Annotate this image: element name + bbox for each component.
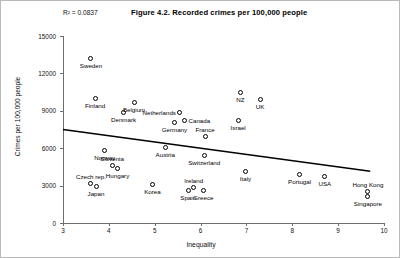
data-point-label: NZ bbox=[236, 97, 244, 103]
data-point-marker[interactable] bbox=[258, 97, 263, 102]
data-point-marker[interactable] bbox=[172, 120, 177, 125]
data-point-label: Denmark bbox=[111, 117, 136, 123]
data-point-marker[interactable] bbox=[132, 100, 137, 105]
data-point-marker[interactable] bbox=[186, 188, 191, 193]
data-point-label: Hong Kong bbox=[352, 182, 383, 188]
data-point-marker[interactable] bbox=[88, 56, 93, 61]
data-point-label: USA bbox=[318, 181, 331, 187]
data-point-label: Italy bbox=[240, 176, 251, 182]
y-tick-mark bbox=[60, 36, 63, 37]
data-point-marker[interactable] bbox=[93, 96, 98, 101]
data-point-marker[interactable] bbox=[88, 181, 93, 186]
y-tick-mark bbox=[60, 73, 63, 74]
y-tick-label: 9000 bbox=[1, 107, 56, 114]
data-point-label: Singapore bbox=[354, 201, 382, 207]
data-point-label: Slovenia bbox=[100, 156, 124, 162]
data-point-label: Korea bbox=[144, 189, 161, 195]
data-point-marker[interactable] bbox=[150, 182, 155, 187]
data-point-marker[interactable] bbox=[121, 110, 126, 115]
y-tick-mark bbox=[60, 148, 63, 149]
x-tick-mark bbox=[246, 223, 247, 226]
data-point-marker[interactable] bbox=[365, 194, 370, 199]
x-tick-mark bbox=[109, 223, 110, 226]
data-point-marker[interactable] bbox=[202, 153, 207, 158]
x-tick-label: 8 bbox=[282, 227, 302, 234]
data-point-marker[interactable] bbox=[236, 118, 241, 123]
data-point-marker[interactable] bbox=[238, 90, 243, 95]
data-point-label: Sweden bbox=[80, 63, 102, 69]
x-tick-mark bbox=[292, 223, 293, 226]
x-axis-line bbox=[63, 223, 384, 224]
x-tick-label: 5 bbox=[145, 227, 165, 234]
y-tick-label: 12000 bbox=[1, 70, 56, 77]
data-point-label: Canada bbox=[189, 118, 211, 124]
figure-container: R² = 0.0837 Figure 4.2. Recorded crimes … bbox=[0, 0, 400, 258]
data-point-label: Czech rep. bbox=[76, 174, 106, 180]
x-tick-mark bbox=[155, 223, 156, 226]
data-point-label: Finland bbox=[85, 103, 105, 109]
y-axis-title: Crimes per 100,000 people bbox=[14, 57, 21, 177]
x-tick-label: 3 bbox=[53, 227, 73, 234]
x-tick-mark bbox=[384, 223, 385, 226]
data-point-label: Netherlands bbox=[143, 110, 176, 116]
y-tick-label: 3000 bbox=[1, 182, 56, 189]
x-tick-mark bbox=[201, 223, 202, 226]
x-tick-label: 10 bbox=[374, 227, 394, 234]
y-tick-label: 6000 bbox=[1, 145, 56, 152]
y-tick-mark bbox=[60, 186, 63, 187]
y-tick-mark bbox=[60, 111, 63, 112]
plot-area: 345678910 03000600090001200015000 Sweden… bbox=[1, 1, 400, 258]
x-tick-mark bbox=[63, 223, 64, 226]
data-point-label: Austria bbox=[156, 152, 175, 158]
data-point-marker[interactable] bbox=[203, 134, 208, 139]
data-point-marker[interactable] bbox=[115, 166, 120, 171]
x-tick-label: 4 bbox=[99, 227, 119, 234]
y-tick-label: 0 bbox=[1, 220, 56, 227]
data-point-marker[interactable] bbox=[110, 163, 115, 168]
data-point-label: Portugal bbox=[288, 179, 311, 185]
data-point-marker[interactable] bbox=[102, 148, 107, 153]
y-tick-label: 15000 bbox=[1, 33, 56, 40]
x-tick-label: 7 bbox=[236, 227, 256, 234]
data-point-marker[interactable] bbox=[322, 174, 327, 179]
data-point-marker[interactable] bbox=[201, 188, 206, 193]
data-point-label: Greece bbox=[193, 195, 213, 201]
x-axis-title: Inequality bbox=[1, 241, 400, 248]
data-point-marker[interactable] bbox=[243, 169, 248, 174]
data-point-label: Hungary bbox=[106, 173, 129, 179]
data-point-label: Israel bbox=[231, 125, 246, 131]
data-point-label: Switzerland bbox=[188, 160, 220, 166]
data-point-marker[interactable] bbox=[191, 185, 196, 190]
x-tick-label: 6 bbox=[191, 227, 211, 234]
data-point-marker[interactable] bbox=[182, 118, 187, 123]
data-point-marker[interactable] bbox=[94, 184, 99, 189]
data-point-marker[interactable] bbox=[297, 172, 302, 177]
x-tick-label: 9 bbox=[328, 227, 348, 234]
x-tick-mark bbox=[338, 223, 339, 226]
data-point-label: UK bbox=[256, 104, 265, 110]
y-axis-line bbox=[63, 36, 64, 224]
data-point-label: Ireland bbox=[184, 178, 203, 184]
y-tick-mark bbox=[60, 223, 63, 224]
data-point-label: Japan bbox=[88, 191, 105, 197]
data-point-label: Germany bbox=[162, 127, 187, 133]
data-point-marker[interactable] bbox=[177, 110, 182, 115]
data-point-marker[interactable] bbox=[163, 145, 168, 150]
data-point-label: France bbox=[196, 127, 215, 133]
